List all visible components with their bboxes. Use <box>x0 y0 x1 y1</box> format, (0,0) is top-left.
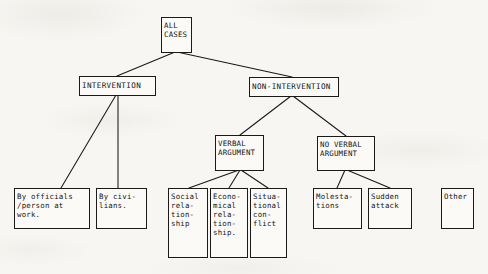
edge-noverbal-suddenattack <box>347 170 390 188</box>
node-no-verbal-argument[interactable]: NO VERBAL ARGUMENT <box>317 136 375 171</box>
edge-allcases-nonintervention <box>177 52 292 77</box>
edge-allcases-intervention <box>117 52 175 76</box>
node-sudden-attack[interactable]: Sudden attack <box>368 188 412 229</box>
node-economical-relationship[interactable]: Econo- mical rela- tion- ship. <box>210 188 248 258</box>
node-molestations[interactable]: Molesta- tions <box>313 188 362 229</box>
node-all-cases[interactable]: ALL CASES <box>161 17 192 53</box>
node-situational-conflict[interactable]: Situa- tional con- flict <box>250 188 287 258</box>
node-intervention[interactable]: INTERVENTION <box>79 76 156 96</box>
node-non-intervention[interactable]: NON-INTERVENTION <box>249 77 339 97</box>
diagram-canvas: ALL CASES INTERVENTION NON-INTERVENTION … <box>0 0 488 274</box>
node-other[interactable]: Other <box>441 188 474 229</box>
edge-verbal-social <box>189 170 239 188</box>
edge-verbal-situational <box>241 170 268 188</box>
node-by-officials[interactable]: By officials /person at work. <box>14 188 90 229</box>
edge-nonintervention-noverbal <box>293 96 346 136</box>
edge-nonintervention-verbal <box>240 96 291 135</box>
edge-intervention-byofficials <box>61 95 116 188</box>
node-verbal-argument[interactable]: VERBAL ARGUMENT <box>215 135 264 171</box>
node-by-civilians[interactable]: By civi- lians. <box>96 188 147 229</box>
edge-noverbal-molestations <box>337 170 345 188</box>
node-social-relationship[interactable]: Social rela- tion- ship <box>168 188 208 258</box>
